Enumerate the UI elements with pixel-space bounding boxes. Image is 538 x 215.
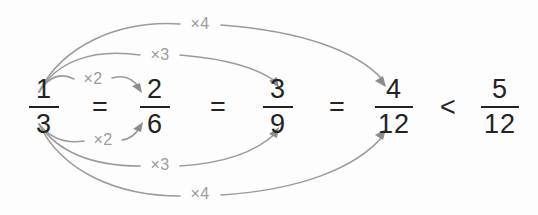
fraction-five-twelfths-numerator: 5 [481,76,519,106]
fraction-one-third-denominator: 3 [29,108,59,138]
fraction-three-ninths: 3 9 [263,76,293,138]
fraction-two-sixths-denominator: 6 [140,108,170,138]
operator-equals-2: = [210,94,226,121]
fraction-one-third: 1 3 [29,76,59,138]
fraction-one-third-numerator: 1 [29,76,59,106]
fraction-three-ninths-denominator: 9 [263,108,293,138]
fraction-two-sixths-numerator: 2 [140,76,170,106]
fraction-diagram-canvas: ×2 ×3 ×4 ×2 [0,0,538,215]
fraction-four-twelfths: 4 12 [375,76,413,138]
fraction-five-twelfths-denominator: 12 [481,108,519,138]
equation-row: 1 3 = 2 6 = 3 9 = 4 12 < 5 12 [0,0,538,215]
fraction-four-twelfths-denominator: 12 [375,108,413,138]
operator-less-than: < [440,94,456,121]
fraction-three-ninths-numerator: 3 [263,76,293,106]
fraction-two-sixths: 2 6 [140,76,170,138]
operator-equals-1: = [92,94,108,121]
operator-equals-3: = [329,94,345,121]
fraction-five-twelfths: 5 12 [481,76,519,138]
fraction-four-twelfths-numerator: 4 [375,76,413,106]
